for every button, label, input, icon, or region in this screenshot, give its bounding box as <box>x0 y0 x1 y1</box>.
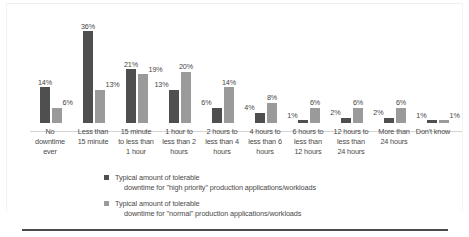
legend-item-high-priority-line2: downtime for "high priority" production … <box>115 183 444 193</box>
bar-value-label: 6% <box>353 99 363 107</box>
bar-value-label: 8% <box>267 94 277 102</box>
legend-item-high-priority: Typical amount of tolerable downtime for… <box>104 173 444 194</box>
bar: 21% <box>126 69 136 123</box>
bar: 1% <box>427 120 437 123</box>
bar-pair: 21%19% <box>126 8 148 123</box>
bar: 36% <box>83 31 93 123</box>
bar: 2% <box>384 118 394 123</box>
x-axis-category-labels: NodowntimeeverLess than15 minute15 minut… <box>18 127 454 169</box>
bar-value-label: 19% <box>149 66 163 74</box>
bar-value-label: 20% <box>179 63 193 71</box>
bar: 19% <box>138 74 148 123</box>
footer-rule <box>22 229 448 231</box>
bar: 6% <box>212 108 222 123</box>
bar-pair: 1%1% <box>427 8 449 123</box>
bar: 13% <box>169 90 179 123</box>
legend-item-normal: Typical amount of tolerable downtime for… <box>104 199 444 220</box>
bar: 14% <box>40 87 50 123</box>
bar-value-label: 13% <box>154 81 168 89</box>
bar: 2% <box>341 118 351 123</box>
legend-item-normal-line2: downtime for "normal" production applica… <box>115 209 444 219</box>
page-frame-right <box>462 3 463 211</box>
bar-value-label: 6% <box>201 99 211 107</box>
bar: 1% <box>298 120 308 123</box>
bar-value-label: 2% <box>330 109 340 117</box>
bar-pair: 4%8% <box>255 8 277 123</box>
bar-value-label: 2% <box>373 109 383 117</box>
bar-value-label: 13% <box>106 81 120 89</box>
bar: 14% <box>224 87 234 123</box>
page-frame-left <box>6 3 7 211</box>
bar-pair: 13%20% <box>169 8 191 123</box>
bar: 8% <box>267 103 277 123</box>
bar-pair: 1%6% <box>298 8 320 123</box>
legend-item-high-priority-line1: Typical amount of tolerable <box>115 173 200 182</box>
x-axis-tick-label: Don't know <box>405 127 461 137</box>
bar-value-label: 1% <box>450 112 460 120</box>
medium-gray-swatch-icon <box>104 201 109 206</box>
bar: 1% <box>439 120 449 123</box>
bar: 20% <box>181 72 191 123</box>
bar-pair: 36%13% <box>83 8 105 123</box>
bar-value-label: 6% <box>310 99 320 107</box>
bar: 6% <box>353 108 363 123</box>
bar-value-label: 21% <box>124 61 138 69</box>
plot-area: 14%6%36%13%21%19%13%20%6%14%4%8%1%6%2%6%… <box>18 8 454 123</box>
bar: 4% <box>255 113 265 123</box>
chart-figure: 14%6%36%13%21%19%13%20%6%14%4%8%1%6%2%6%… <box>0 0 469 237</box>
bar: 13% <box>95 90 105 123</box>
bar-value-label: 1% <box>287 112 297 120</box>
bar-pair: 2%6% <box>384 8 406 123</box>
bar-value-label: 14% <box>222 79 236 87</box>
bar-value-label: 14% <box>38 79 52 87</box>
bar-value-label: 4% <box>244 104 254 112</box>
bar: 6% <box>310 108 320 123</box>
bar-value-label: 1% <box>416 112 426 120</box>
bar: 6% <box>52 108 62 123</box>
page-frame-top <box>6 3 463 4</box>
bar-pair: 6%14% <box>212 8 234 123</box>
bar-value-label: 6% <box>63 99 73 107</box>
bar-value-label: 36% <box>81 23 95 31</box>
bar-pair: 14%6% <box>40 8 62 123</box>
bar-value-label: 6% <box>396 99 406 107</box>
dark-gray-swatch-icon <box>104 175 109 180</box>
chart-legend: Typical amount of tolerable downtime for… <box>104 173 444 225</box>
bar: 6% <box>396 108 406 123</box>
bar-pair: 2%6% <box>341 8 363 123</box>
legend-item-normal-line1: Typical amount of tolerable <box>115 199 200 208</box>
